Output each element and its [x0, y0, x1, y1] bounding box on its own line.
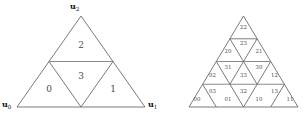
- vertex-sub-u2: 2: [76, 6, 80, 12]
- right-cell-33: 33: [240, 72, 247, 78]
- left-cell-0: 0: [46, 84, 52, 94]
- right-cell-01: 01: [225, 96, 232, 102]
- vertex-sub-u0: 0: [8, 104, 12, 110]
- vertex-label-u1: u1: [148, 100, 157, 109]
- left-cell-1: 1: [110, 84, 116, 94]
- right-cell-20: 20: [225, 48, 232, 54]
- right-leftlean-2: [230, 62, 271, 126]
- right-cell-23: 23: [240, 40, 247, 46]
- right-cell-31: 31: [225, 64, 232, 70]
- right-cell-22: 22: [240, 24, 247, 30]
- left-median-right: [81, 62, 113, 108]
- vertex-base-u0: u: [2, 99, 8, 109]
- vertex-sub-u1: 1: [154, 104, 158, 110]
- right-triangle-group: 22 20 23 21 02 31 33 30 12 00 03 01 32 1…: [189, 16, 298, 125]
- left-cell-2: 2: [78, 40, 84, 50]
- vertex-base-u1: u: [148, 99, 154, 109]
- right-cell-10: 10: [256, 96, 263, 102]
- right-cell-00: 00: [194, 96, 201, 102]
- right-cell-30: 30: [256, 64, 263, 70]
- right-cell-13: 13: [271, 88, 278, 94]
- right-cell-32: 32: [240, 88, 247, 94]
- left-triangle-group: 0 1 2 3: [17, 16, 145, 107]
- right-cell-02: 02: [209, 72, 216, 78]
- right-cell-03: 03: [209, 88, 216, 94]
- triangle-subdivision-figure: 0 1 2 3 22 20: [0, 0, 307, 125]
- right-cell-12: 12: [271, 72, 278, 78]
- vertex-base-u2: u: [70, 1, 76, 11]
- left-cell-3: 3: [78, 71, 84, 81]
- vertex-label-u0: u0: [2, 100, 11, 109]
- left-median-left: [49, 62, 81, 108]
- right-cell-21: 21: [256, 48, 263, 54]
- right-cell-11: 11: [287, 96, 294, 102]
- vertex-label-u2: u2: [70, 2, 79, 11]
